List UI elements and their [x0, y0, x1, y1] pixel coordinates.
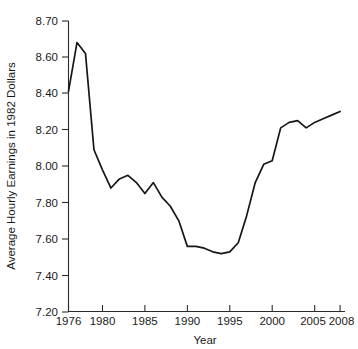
x-tick-label: 1990	[175, 315, 201, 327]
y-tick-label: 8.20	[36, 124, 58, 136]
x-tick-label: 1985	[132, 315, 158, 327]
y-axis-tick-labels: 8.70 8.60 8.40 8.20 8.00 7.80 7.60 7.40 …	[36, 15, 58, 318]
x-tick-label: 2005	[300, 315, 326, 327]
line-chart: 8.70 8.60 8.40 8.20 8.00 7.80 7.60 7.40 …	[0, 0, 358, 349]
x-tick-label: 2008	[329, 315, 355, 327]
x-axis-ticks	[69, 305, 341, 312]
y-tick-label: 7.40	[36, 270, 58, 282]
y-tick-label: 8.70	[36, 15, 58, 27]
y-tick-label: 8.60	[36, 51, 58, 63]
x-tick-label: 1976	[56, 315, 82, 327]
y-tick-label: 7.80	[36, 197, 58, 209]
y-tick-label: 7.60	[36, 233, 58, 245]
x-tick-label: 1995	[217, 315, 243, 327]
y-tick-label: 8.40	[36, 87, 58, 99]
x-axis-tick-labels: 1976 1980 1985 1990 1995 2000 2005 2008	[56, 315, 355, 327]
y-axis-title: Average Hourly Earnings in 1982 Dollars	[5, 62, 17, 270]
y-axis-ticks	[62, 21, 69, 312]
x-axis-title: Year	[193, 334, 216, 346]
chart-canvas: 8.70 8.60 8.40 8.20 8.00 7.80 7.60 7.40 …	[0, 0, 358, 349]
x-tick-label: 2000	[259, 315, 285, 327]
y-tick-label: 8.00	[36, 160, 58, 172]
data-series-line	[69, 43, 341, 254]
x-tick-label: 1980	[90, 315, 116, 327]
y-tick-label: 7.20	[36, 306, 58, 318]
